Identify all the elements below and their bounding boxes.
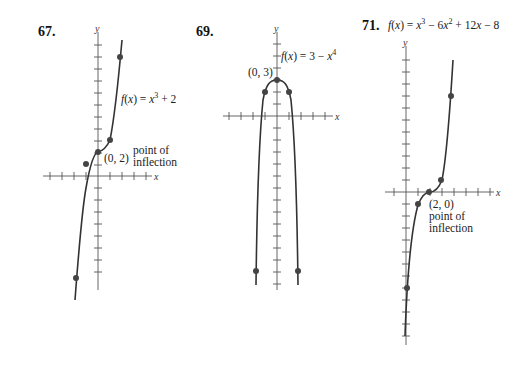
y-axis-label: y: [273, 23, 279, 34]
graph-71: 71. f(x) = x3 − 6x2 + 12x − 8 y x: [362, 17, 501, 345]
max-point-marker: [274, 77, 280, 83]
problem-number: 71.: [362, 18, 380, 33]
function-label: f(x) = x3 − 6x2 + 12x − 8: [388, 17, 500, 32]
point-marker: [438, 177, 444, 183]
y-axis-label: y: [94, 23, 100, 34]
point-marker: [117, 54, 123, 60]
graph-67: 67. y x f(: [38, 23, 177, 300]
point-marker: [404, 285, 410, 291]
function-label: f(x) = 3 − x4: [281, 48, 336, 63]
annotation-line2: inflection: [133, 156, 177, 168]
inflection-point-marker: [426, 189, 432, 195]
graph-69: 69. y x f(x) = 3 − x4 (0,: [196, 23, 340, 290]
point-marker: [262, 89, 268, 95]
point-marker: [107, 137, 113, 143]
point-marker: [295, 268, 301, 274]
x-axis-label: x: [495, 187, 501, 198]
problem-number: 67.: [38, 24, 56, 39]
point-marker: [286, 89, 292, 95]
y-axis-label: y: [402, 37, 408, 48]
x-axis-label: x: [153, 171, 159, 182]
inflection-point-marker: [95, 149, 101, 155]
point-marker: [253, 268, 259, 274]
point-marker: [448, 93, 454, 99]
function-label: f(x) = x3 + 2: [121, 91, 177, 106]
point-marker: [415, 201, 421, 207]
point-label: (0, 2): [104, 152, 129, 165]
point-marker: [73, 275, 79, 281]
graphs-canvas: 67. y x f(: [0, 0, 529, 367]
point-label: (0, 3): [248, 66, 273, 79]
problem-number: 69.: [196, 24, 214, 39]
x-axis-label: x: [334, 111, 340, 122]
annotation-line2: inflection: [429, 222, 473, 234]
function-curve: [75, 40, 122, 300]
point-marker: [83, 161, 89, 167]
